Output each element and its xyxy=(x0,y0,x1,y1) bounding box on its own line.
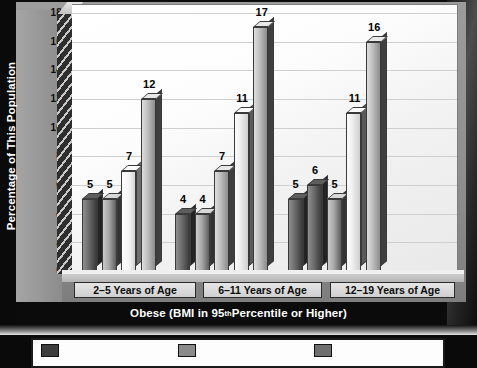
category-label-box: 6–11 Years of Age xyxy=(203,282,322,298)
bar-front-face xyxy=(82,199,97,271)
y-axis-tick-label: 6 xyxy=(16,178,62,189)
bar-front-face xyxy=(195,214,210,271)
bar-value-label: 11 xyxy=(349,92,361,104)
y-axis-tick-label: 18 xyxy=(16,6,62,17)
bar-front-face xyxy=(307,185,322,271)
legend-item xyxy=(33,344,170,357)
category-label-box: 2–5 Years of Age xyxy=(74,282,196,298)
bar: 5 xyxy=(102,199,117,271)
chart-legend xyxy=(31,338,445,368)
chart-floor-front xyxy=(62,270,464,274)
bar-side-face xyxy=(381,32,387,266)
x-axis-title-superscript: th xyxy=(224,309,231,318)
y-axis-tick-label: 12 xyxy=(16,92,62,103)
bar: 5 xyxy=(327,199,342,271)
x-axis-title-post: Percentile or Higher) xyxy=(232,307,347,319)
y-axis-tick-label: 0 xyxy=(16,265,62,276)
bar-value-label: 11 xyxy=(236,92,248,104)
bar-front-face xyxy=(346,113,361,271)
bar-front-face xyxy=(366,42,381,271)
bar-value-label: 4 xyxy=(200,193,206,205)
bar-front-face xyxy=(253,27,268,271)
bar-front-face xyxy=(288,199,303,271)
legend-item xyxy=(170,344,307,357)
y-axis-title: Percentage of This Population xyxy=(5,31,17,261)
bar-value-label: 5 xyxy=(107,178,113,190)
bar-front-face xyxy=(234,113,249,271)
y-axis-tick-label: 10 xyxy=(16,121,62,132)
bar-value-label: 4 xyxy=(180,193,186,205)
bar-value-label: 5 xyxy=(293,178,299,190)
bar-side-face xyxy=(268,17,274,266)
y-axis-title-band: Percentage of This Population xyxy=(0,0,16,325)
bar-value-label: 5 xyxy=(332,178,338,190)
y-axis-tick-label: 16 xyxy=(16,35,62,46)
y-axis-panel: 024681012141618 xyxy=(14,10,62,302)
bar-value-label: 5 xyxy=(87,178,93,190)
legend-drop-shadow xyxy=(0,325,477,335)
bar-value-label: 6 xyxy=(312,164,318,176)
bar: 7 xyxy=(214,171,229,271)
legend-swatch-icon xyxy=(178,344,196,357)
bar: 4 xyxy=(195,214,210,271)
category-label-box: 12–19 Years of Age xyxy=(330,282,455,298)
x-axis-title-pre: Obese (BMI in 95 xyxy=(130,307,224,319)
bar-front-face xyxy=(327,199,342,271)
bar: 6 xyxy=(307,185,322,271)
bar-front-face xyxy=(214,171,229,271)
bar-value-label: 16 xyxy=(368,21,380,33)
bar-front-face xyxy=(175,214,190,271)
x-axis-title: Obese (BMI in 95th Percentile or Higher) xyxy=(0,303,477,323)
bar: 11 xyxy=(346,113,361,271)
y-axis-tick-label: 14 xyxy=(16,64,62,75)
bar-value-label: 17 xyxy=(256,6,268,18)
y-axis-tick-label: 2 xyxy=(16,236,62,247)
bar: 7 xyxy=(121,171,136,271)
bar-front-face xyxy=(102,199,117,271)
bar: 16 xyxy=(366,42,381,271)
legend-swatch-icon xyxy=(41,344,59,357)
bar: 11 xyxy=(234,113,249,271)
bar-front-face xyxy=(141,99,156,271)
bar-front-face xyxy=(121,171,136,271)
bar-side-face xyxy=(156,89,162,266)
bar-value-label: 12 xyxy=(143,78,155,90)
bar-value-label: 7 xyxy=(126,150,132,162)
bar: 4 xyxy=(175,214,190,271)
bar: 12 xyxy=(141,99,156,271)
plot-area: 5571244711175651116 xyxy=(72,4,458,272)
bar-value-label: 7 xyxy=(219,150,225,162)
y-axis-tick-label: 4 xyxy=(16,207,62,218)
legend-item xyxy=(306,344,443,357)
chart-figure: 024681012141618 5571244711175651116 2–5 … xyxy=(0,0,477,325)
bar: 5 xyxy=(288,199,303,271)
bar: 5 xyxy=(82,199,97,271)
legend-swatch-icon xyxy=(314,344,332,357)
y-axis-tick-label: 8 xyxy=(16,150,62,161)
bar: 17 xyxy=(253,27,268,271)
